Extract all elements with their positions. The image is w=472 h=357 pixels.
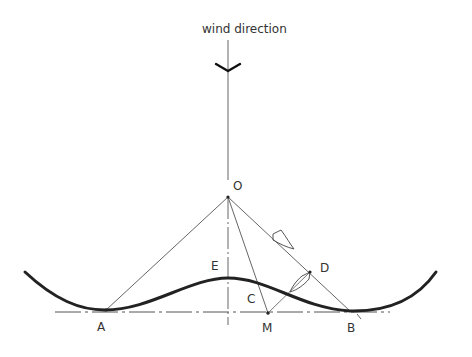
point-B-tick	[357, 314, 361, 319]
point-O	[226, 195, 229, 198]
sailboat-upper-icon	[273, 230, 294, 249]
label-E: E	[211, 259, 219, 273]
label-B: B	[347, 321, 355, 335]
point-D	[308, 270, 311, 273]
point-M	[266, 311, 270, 315]
line-MD	[268, 272, 310, 313]
wind-direction-label: wind direction	[202, 22, 287, 36]
label-O: O	[233, 179, 242, 193]
line-OA	[106, 197, 228, 310]
label-M: M	[262, 321, 272, 335]
label-A: A	[97, 320, 106, 334]
point-A	[105, 309, 108, 312]
wave-curve	[25, 272, 436, 311]
label-D: D	[320, 261, 329, 275]
label-C: C	[247, 292, 255, 306]
sailing-diagram: wind direction O D E C A M B	[0, 0, 472, 357]
